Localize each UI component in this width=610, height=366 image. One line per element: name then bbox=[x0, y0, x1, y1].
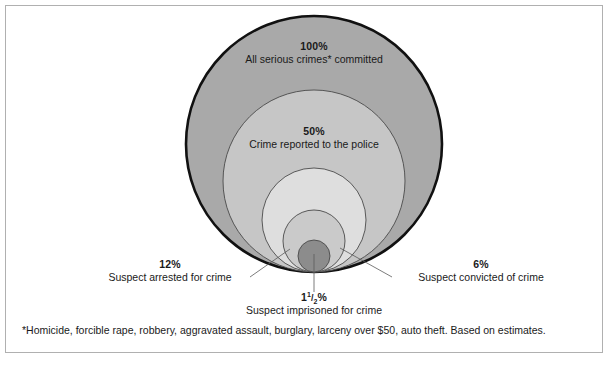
label-convicted-desc: Suspect convicted of crime bbox=[396, 271, 566, 284]
label-imprisoned-percent: 11/2% bbox=[232, 291, 396, 304]
label-reported-percent: 50% bbox=[224, 125, 404, 138]
label-imprisoned-desc: Suspect imprisoned for crime bbox=[232, 304, 396, 317]
label-all-crimes-desc: All serious crimes* committed bbox=[214, 53, 414, 66]
label-reported: 50% Crime reported to the police bbox=[224, 125, 404, 151]
fraction-suffix: % bbox=[318, 291, 327, 303]
fraction-one-and-half: 11/2% bbox=[301, 291, 327, 304]
label-arrested-desc: Suspect arrested for crime bbox=[90, 271, 250, 284]
diagram-page: 100% All serious crimes* committed 50% C… bbox=[0, 0, 610, 366]
label-convicted-percent: 6% bbox=[396, 258, 566, 271]
label-convicted: 6% Suspect convicted of crime bbox=[396, 258, 566, 284]
label-reported-desc: Crime reported to the police bbox=[224, 138, 404, 151]
label-all-crimes: 100% All serious crimes* committed bbox=[214, 40, 414, 66]
label-arrested-percent: 12% bbox=[90, 258, 250, 271]
label-imprisoned: 11/2% Suspect imprisoned for crime bbox=[232, 291, 396, 317]
footnote-text: *Homicide, forcible rape, robbery, aggra… bbox=[22, 324, 588, 336]
label-all-crimes-percent: 100% bbox=[214, 40, 414, 53]
label-arrested: 12% Suspect arrested for crime bbox=[90, 258, 250, 284]
